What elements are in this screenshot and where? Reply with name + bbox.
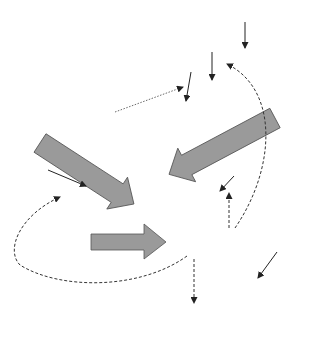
prothrombinase-arrow — [91, 224, 166, 259]
intrinsic-xase-arrow — [160, 101, 284, 191]
arrow-viia-ix — [115, 87, 183, 112]
arrow-viii-viiia — [220, 176, 234, 191]
arrow-ix-ixa — [186, 72, 191, 101]
extrinsic-xase-arrow — [30, 127, 145, 220]
diagram-canvas — [0, 0, 314, 356]
arrow-fibrinogen-monomer — [258, 252, 277, 278]
